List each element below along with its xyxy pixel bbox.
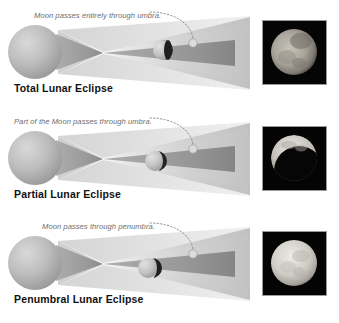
moon-photo-total-svg: [263, 21, 326, 84]
panel-total-lunar-eclipse: Moon passes entirely through umbra. Tota…: [0, 0, 339, 107]
panel-partial-lunar-eclipse: Part of the Moon passes through umbra. P…: [0, 106, 339, 213]
earth-sphere: [8, 236, 62, 290]
annotation-penumbral: Moon passes through penumbra.: [42, 222, 155, 231]
caption-total: Total Lunar Eclipse: [14, 82, 113, 94]
lunar-eclipse-diagram: Moon passes entirely through umbra. Tota…: [0, 0, 339, 323]
moon-photo-penumbral-svg: [263, 232, 326, 295]
callout-target-marker: [189, 39, 197, 47]
eclipse-photo-partial: [262, 126, 327, 191]
earth-sphere: [8, 25, 62, 79]
panel-penumbral-lunar-eclipse: Moon passes through penumbra. Penumbral …: [0, 211, 339, 318]
annotation-total: Moon passes entirely through umbra.: [34, 11, 161, 20]
callout-target-marker: [189, 250, 197, 258]
moon-umbra-darkening: [164, 40, 172, 60]
moon-sphere: [138, 258, 158, 278]
caption-penumbral: Penumbral Lunar Eclipse: [14, 293, 144, 305]
annotation-partial: Part of the Moon passes through umbra.: [14, 117, 152, 126]
callout-target-marker: [189, 145, 197, 153]
eclipse-photo-total: [262, 20, 327, 85]
earth-sphere: [8, 131, 62, 185]
eclipse-photo-penumbral: [262, 231, 327, 296]
caption-partial: Partial Lunar Eclipse: [14, 188, 121, 200]
moon-photo-partial-svg: [263, 127, 326, 190]
